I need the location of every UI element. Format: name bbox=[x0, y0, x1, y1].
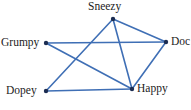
graph-node-happy bbox=[130, 87, 134, 91]
node-label-happy: Happy bbox=[137, 83, 168, 95]
node-label-grumpy: Grumpy bbox=[1, 37, 39, 49]
graph-edge-grumpy-doc bbox=[46, 42, 166, 43]
graph-figure: Sneezy Grumpy Doc Dopey Happy bbox=[0, 0, 191, 110]
graph-node-doc bbox=[164, 40, 168, 44]
graph-edge-dopey-happy bbox=[46, 89, 132, 91]
node-label-doc: Doc bbox=[171, 36, 190, 48]
edge-layer bbox=[46, 19, 166, 91]
graph-edge-dopey-sneezy bbox=[46, 19, 113, 91]
graph-node-grumpy bbox=[44, 41, 48, 45]
graph-node-sneezy bbox=[111, 17, 115, 21]
graph-edge-sneezy-happy bbox=[113, 19, 132, 89]
node-label-sneezy: Sneezy bbox=[88, 1, 121, 13]
graph-edge-sneezy-doc bbox=[113, 19, 166, 42]
graph-edge-grumpy-happy bbox=[46, 43, 132, 89]
graph-node-dopey bbox=[44, 89, 48, 93]
node-label-dopey: Dopey bbox=[6, 85, 37, 97]
